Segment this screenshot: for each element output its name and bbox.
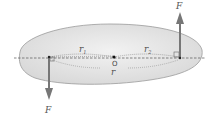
r-label: r: [111, 67, 116, 77]
couple-diagram: F F r1 r2 O r: [0, 0, 213, 129]
force-label-top: F: [175, 1, 183, 11]
force-label-bottom: F: [44, 105, 52, 115]
origin-point: [112, 55, 115, 58]
